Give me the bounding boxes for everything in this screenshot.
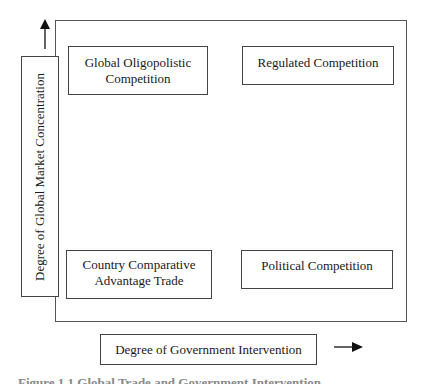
x-axis-label: Degree of Government Intervention [115, 342, 302, 358]
quadrant-label: Country Comparative Advantage Trade [74, 257, 204, 289]
quadrant-global-oligopolistic-competition: Global Oligopolistic Competition [68, 46, 208, 95]
quadrant-political-competition: Political Competition [241, 250, 393, 289]
quadrant-country-comparative-advantage-trade: Country Comparative Advantage Trade [66, 250, 212, 299]
y-axis-label-box: Degree of Global Market Concentration [21, 56, 59, 297]
y-axis-label: Degree of Global Market Concentration [32, 73, 48, 281]
quadrant-label: Political Competition [261, 258, 373, 274]
x-axis-label-box: Degree of Government Intervention [100, 334, 317, 365]
quadrant-regulated-competition: Regulated Competition [242, 46, 394, 85]
arrow-right-icon [333, 340, 365, 354]
figure-caption: Figure 1.1 Global Trade and Government I… [18, 372, 418, 384]
quadrant-label: Regulated Competition [258, 55, 379, 71]
arrow-up-icon [38, 18, 52, 50]
quadrant-label: Global Oligopolistic Competition [83, 55, 193, 87]
